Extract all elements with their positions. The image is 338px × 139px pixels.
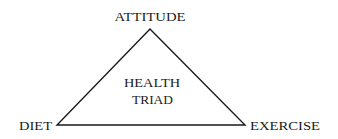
label-exercise: EXERCISE [250, 118, 320, 133]
label-triad: TRIAD [132, 92, 173, 107]
label-health: HEALTH [124, 75, 180, 90]
label-diet: DIET [19, 118, 52, 133]
label-attitude: ATTITUDE [115, 9, 186, 24]
health-triad-diagram: ATTITUDE DIET EXERCISE HEALTH TRIAD [0, 0, 338, 139]
